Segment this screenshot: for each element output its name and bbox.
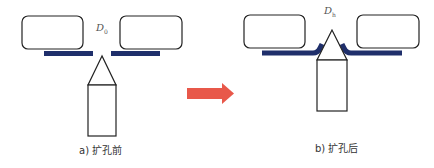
sheet-left — [44, 51, 93, 56]
diameter-label-before: D0 — [96, 22, 108, 35]
caption-before: a) 扩孔前 — [79, 142, 122, 157]
diameter-label-after: Dh — [324, 5, 336, 18]
hole-expansion-diagram — [0, 0, 434, 168]
caption-after: b) 扩孔后 — [315, 140, 358, 155]
die-left — [244, 15, 305, 48]
diameter-symbol: D — [96, 22, 104, 33]
panel-after — [244, 15, 419, 111]
transition-arrow — [187, 83, 234, 104]
sheet-right — [111, 51, 160, 56]
diameter-symbol: D — [324, 5, 332, 16]
punch-cone — [88, 56, 116, 85]
punch-body — [88, 85, 116, 136]
diameter-subscript: h — [332, 11, 336, 18]
punch-body — [317, 60, 347, 111]
die-right — [357, 15, 419, 48]
diameter-subscript: 0 — [104, 28, 108, 35]
die-right — [120, 16, 182, 49]
die-left — [22, 16, 83, 49]
